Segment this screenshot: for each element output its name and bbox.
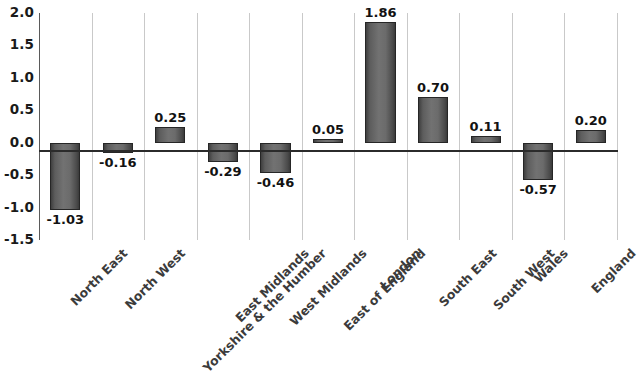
bar-value-label: -0.29 — [204, 165, 241, 178]
category-gridline — [564, 13, 565, 240]
y-axis-tick-neg0-5: -0.5 — [0, 168, 34, 182]
category-label: London — [378, 247, 423, 292]
y-axis-tick-neg1-0: -1.0 — [0, 201, 34, 215]
bar-value-label: 0.25 — [154, 111, 186, 124]
y-axis-tick-1neg0: 1.0 — [0, 71, 34, 85]
category-gridline — [144, 13, 145, 240]
bar[interactable] — [260, 143, 290, 173]
bar-value-label: 1.86 — [364, 6, 396, 19]
bar[interactable] — [313, 139, 343, 143]
category-gridline — [512, 13, 513, 240]
zero-baseline — [39, 150, 618, 152]
bar-value-label: 0.11 — [470, 120, 502, 133]
category-gridline — [92, 13, 93, 240]
bar-value-label: 0.20 — [575, 114, 607, 127]
bar[interactable] — [418, 97, 448, 142]
category-gridline — [459, 13, 460, 240]
bar-value-label: 0.70 — [417, 81, 449, 94]
bar-value-label: -1.03 — [47, 213, 84, 226]
category-label: North East — [69, 247, 130, 308]
bar-value-label: -0.16 — [99, 156, 136, 169]
category-gridline — [197, 13, 198, 240]
y-axis-tick-1neg5: 1.5 — [0, 39, 34, 53]
y-axis-tick-0neg0: 0.0 — [0, 136, 34, 150]
category-gridline — [407, 13, 408, 240]
bar[interactable] — [50, 143, 80, 210]
category-label: England — [589, 247, 638, 296]
bar[interactable] — [208, 143, 238, 162]
bar[interactable] — [576, 130, 606, 143]
bar-value-label: -0.46 — [257, 176, 294, 189]
category-gridline — [354, 13, 355, 240]
bar-value-label: -0.57 — [519, 183, 556, 196]
bar[interactable] — [155, 127, 185, 143]
y-axis-tick-neg1-5: -1.5 — [0, 233, 34, 247]
bar[interactable] — [471, 136, 501, 143]
bar-value-label: 0.05 — [312, 123, 344, 136]
category-gridline — [617, 13, 618, 240]
bar[interactable] — [365, 22, 395, 143]
y-axis-tick-2neg0: 2.0 — [0, 6, 34, 20]
category-gridline — [249, 13, 250, 240]
category-label: North West — [123, 247, 188, 312]
bar[interactable] — [523, 143, 553, 180]
category-gridline — [302, 13, 303, 240]
y-axis-tick-0neg5: 0.5 — [0, 104, 34, 118]
category-label: South East — [437, 247, 499, 309]
